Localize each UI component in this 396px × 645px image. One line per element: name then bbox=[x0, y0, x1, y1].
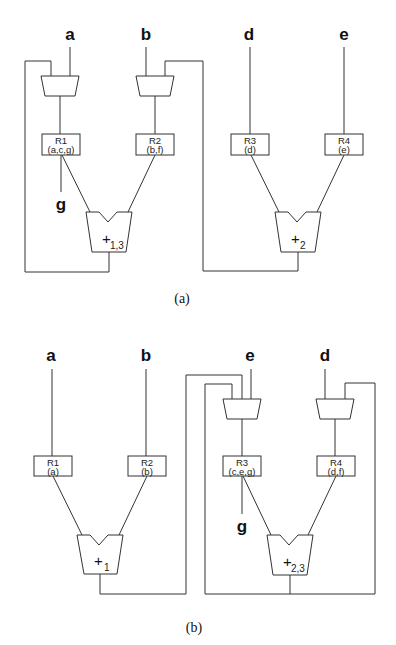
input-label-b: b bbox=[141, 25, 151, 44]
register-r1-contents: (a) bbox=[47, 466, 59, 477]
wire-r1-adder1 bbox=[53, 476, 82, 535]
feedback-adder1-mux3 bbox=[100, 375, 242, 594]
wire-r2-adder1 bbox=[128, 155, 155, 212]
adder-1-subscript: 1,3 bbox=[110, 240, 124, 251]
input-label-a: a bbox=[46, 346, 56, 365]
input-label-e: e bbox=[245, 346, 254, 365]
adder-1-subscript: 1 bbox=[104, 562, 110, 573]
part-b: a b e d R1 (a) R2 (b) R3 (c,e,g) R4 (d,f… bbox=[34, 346, 375, 636]
register-r4-contents: (e) bbox=[338, 144, 350, 155]
adder-1-symbol: + bbox=[94, 552, 103, 569]
register-r4-contents: (d,f) bbox=[328, 466, 345, 477]
wire-r4-adder2 bbox=[308, 476, 336, 535]
input-label-d: d bbox=[320, 346, 330, 365]
feedback-adder2-mux2 bbox=[165, 61, 298, 271]
wire-r3-adder2 bbox=[251, 155, 279, 212]
datapath-diagram: a b d e R1 (a,c,g) R2 (b,f) R3 (d) R4 (e… bbox=[0, 0, 396, 645]
adder-2-subscript: 2 bbox=[300, 240, 306, 251]
register-r2-contents: (b) bbox=[141, 466, 153, 477]
input-label-e: e bbox=[339, 25, 348, 44]
wire-r4-adder2 bbox=[317, 155, 344, 212]
part-a: a b d e R1 (a,c,g) R2 (b,f) R3 (d) R4 (e… bbox=[25, 25, 363, 307]
register-r1-contents: (a,c,g) bbox=[48, 144, 75, 155]
input-label-d: d bbox=[244, 25, 254, 44]
mux-2 bbox=[136, 76, 174, 96]
output-label-g: g bbox=[56, 195, 66, 214]
input-label-a: a bbox=[65, 25, 75, 44]
caption-a: (a) bbox=[174, 291, 190, 307]
adder-2-subscript: 2,3 bbox=[291, 563, 305, 574]
adder-2-symbol: + bbox=[291, 230, 300, 247]
output-label-g: g bbox=[237, 517, 247, 536]
caption-b: (b) bbox=[186, 620, 203, 636]
wire-r2-adder1 bbox=[119, 476, 147, 535]
mux-3 bbox=[223, 399, 261, 419]
input-label-b: b bbox=[141, 346, 151, 365]
register-r2-contents: (b,f) bbox=[147, 144, 164, 155]
mux-4 bbox=[316, 399, 354, 419]
mux-1 bbox=[41, 76, 79, 96]
register-r3-contents: (d) bbox=[244, 144, 256, 155]
register-r3-contents: (c,e,g) bbox=[229, 466, 256, 477]
